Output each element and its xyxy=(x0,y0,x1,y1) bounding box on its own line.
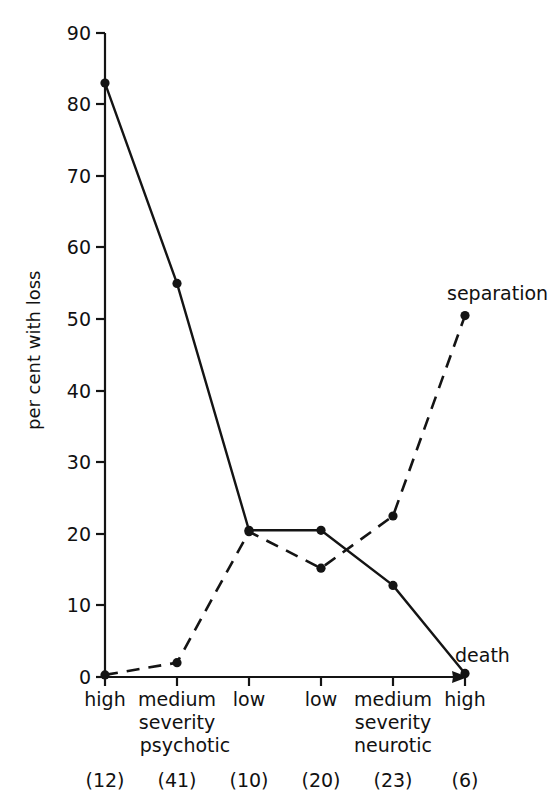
y-tick-label: 90 xyxy=(67,22,91,44)
x-count-label: (6) xyxy=(452,769,479,791)
series-label-separation: separation xyxy=(447,282,548,304)
group-label-severity-psychotic: severity xyxy=(139,711,215,733)
x-category-labels: high medium low low medium high xyxy=(84,688,485,710)
data-point xyxy=(388,581,397,590)
series-separation-markers xyxy=(100,311,469,680)
x-category-label: medium xyxy=(138,688,216,710)
x-group-labels: severity psychotic severity neurotic xyxy=(139,711,432,756)
line-chart-svg: 90 80 70 60 50 40 30 20 10 0 per cent wi… xyxy=(0,0,551,810)
y-tick-label: 0 xyxy=(79,666,91,688)
data-point xyxy=(316,564,325,573)
y-tick-labels: 90 80 70 60 50 40 30 20 10 0 xyxy=(67,22,91,688)
data-point xyxy=(172,279,181,288)
series-death-line xyxy=(105,83,465,673)
y-tick-label: 40 xyxy=(67,380,91,402)
x-category-label: high xyxy=(444,688,485,710)
x-category-label: medium xyxy=(354,688,432,710)
series-separation-line xyxy=(105,316,465,675)
y-tick-label: 50 xyxy=(67,308,91,330)
x-category-label: low xyxy=(233,688,265,710)
data-point xyxy=(100,670,109,679)
x-count-label: (10) xyxy=(229,769,268,791)
x-count-label: (12) xyxy=(85,769,124,791)
data-point xyxy=(172,658,181,667)
y-tick-label: 80 xyxy=(67,93,91,115)
data-point xyxy=(460,311,469,320)
y-tick-label: 20 xyxy=(67,523,91,545)
x-count-label: (20) xyxy=(301,769,340,791)
y-tick-label: 10 xyxy=(67,594,91,616)
y-tick-label: 30 xyxy=(67,451,91,473)
y-tick-label: 70 xyxy=(67,165,91,187)
x-count-label: (23) xyxy=(373,769,412,791)
data-point xyxy=(460,669,469,678)
y-axis-title: per cent with loss xyxy=(23,271,44,430)
x-count-labels: (12) (41) (10) (20) (23) (6) xyxy=(85,769,478,791)
chart-figure: 90 80 70 60 50 40 30 20 10 0 per cent wi… xyxy=(0,0,551,810)
y-tick-label: 60 xyxy=(67,236,91,258)
x-category-label: high xyxy=(84,688,125,710)
data-point xyxy=(316,526,325,535)
data-point xyxy=(244,527,253,536)
group-label-severity-neurotic: severity xyxy=(355,711,431,733)
x-count-label: (41) xyxy=(157,769,196,791)
group-label-neurotic: neurotic xyxy=(354,734,432,756)
series-label-death: death xyxy=(455,644,510,666)
group-label-psychotic: psychotic xyxy=(140,734,231,756)
x-category-label: low xyxy=(305,688,337,710)
y-tick-marks xyxy=(96,33,105,677)
x-tick-marks xyxy=(105,677,465,686)
series-death-markers xyxy=(100,79,469,679)
data-point xyxy=(388,511,397,520)
data-point xyxy=(100,79,109,88)
